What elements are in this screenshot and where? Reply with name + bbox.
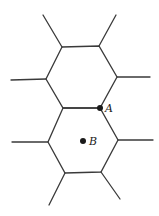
- point-b-marker: [80, 138, 86, 144]
- upper-hexagon: [46, 46, 117, 108]
- hexagon-lattice-graphic: A B: [0, 0, 159, 216]
- hexagon-diagram: A B: [0, 0, 159, 216]
- point-a-marker: [97, 105, 103, 111]
- stub-edges: [11, 15, 153, 205]
- point-a-label: A: [104, 102, 113, 115]
- point-b-label: B: [88, 135, 97, 148]
